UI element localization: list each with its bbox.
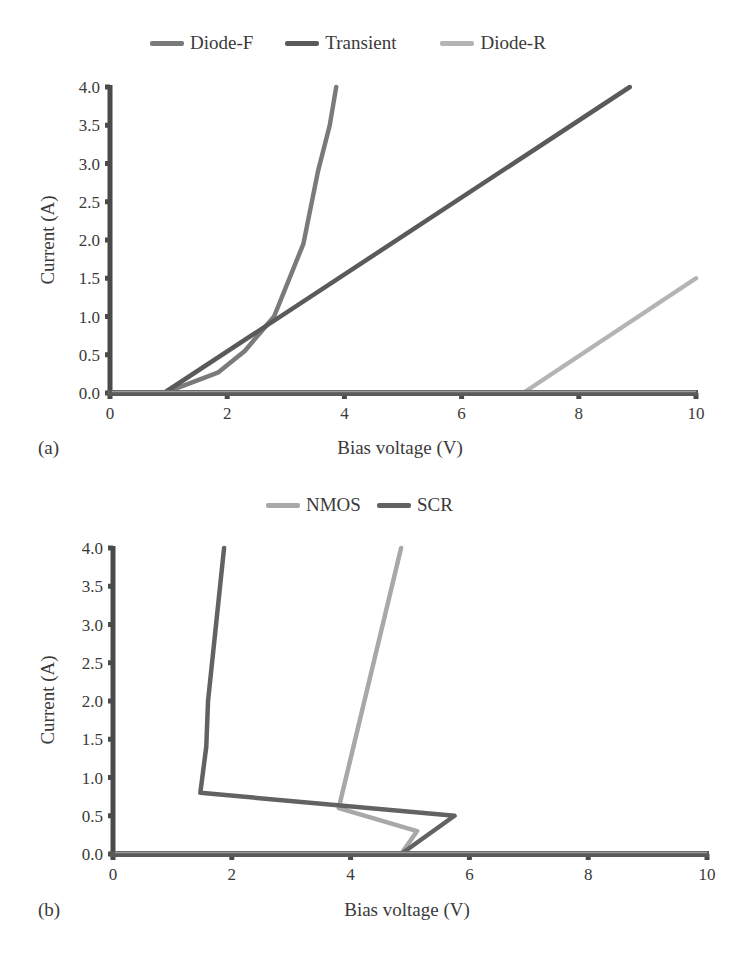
x-tick-label: 8 <box>584 865 593 884</box>
series-scr <box>113 548 455 854</box>
y-axis-label: Current (A) <box>37 195 59 284</box>
y-tick-label: 3.5 <box>79 116 100 135</box>
y-tick-label: 2.5 <box>82 654 103 673</box>
panel-label: (a) <box>38 437 59 459</box>
y-tick-label: 3.0 <box>82 616 103 635</box>
y-tick-label: 0.0 <box>79 384 100 403</box>
y-tick-label: 2.0 <box>79 231 100 250</box>
series-diode-r <box>110 278 696 393</box>
series-transient <box>110 87 630 393</box>
y-tick-label: 1.0 <box>82 769 103 788</box>
x-tick-label: 10 <box>688 404 705 423</box>
y-tick-label: 1.5 <box>79 269 100 288</box>
y-tick-label: 3.5 <box>82 577 103 596</box>
y-tick-label: 2.5 <box>79 193 100 212</box>
chart-canvas: 0.00.51.01.52.02.53.03.54.00246810Bias v… <box>0 0 743 958</box>
x-tick-label: 0 <box>109 865 118 884</box>
chart-panel-a: 0.00.51.01.52.02.53.03.54.00246810Bias v… <box>37 78 705 459</box>
series-diode-f <box>110 87 336 393</box>
figure: Diode-F Transient Diode-R NMOS SCR 0.00.… <box>0 0 743 958</box>
y-tick-label: 0.5 <box>79 346 100 365</box>
chart-panel-b: 0.00.51.01.52.02.53.03.54.00246810Bias v… <box>37 539 716 921</box>
x-tick-label: 0 <box>106 404 115 423</box>
x-tick-label: 4 <box>346 865 355 884</box>
y-tick-label: 2.0 <box>82 692 103 711</box>
y-tick-label: 3.0 <box>79 155 100 174</box>
y-tick-label: 1.5 <box>82 730 103 749</box>
y-tick-label: 0.0 <box>82 845 103 864</box>
x-tick-label: 6 <box>465 865 474 884</box>
x-tick-label: 6 <box>457 404 466 423</box>
y-axis-label: Current (A) <box>37 655 59 744</box>
panel-label: (b) <box>38 899 60 921</box>
x-tick-label: 2 <box>228 865 237 884</box>
y-tick-label: 4.0 <box>82 539 103 558</box>
y-tick-label: 0.5 <box>82 807 103 826</box>
x-tick-label: 2 <box>223 404 232 423</box>
x-tick-label: 4 <box>340 404 349 423</box>
x-tick-label: 10 <box>699 865 716 884</box>
x-axis-label: Bias voltage (V) <box>337 437 463 459</box>
y-tick-label: 4.0 <box>79 78 100 97</box>
x-axis-label: Bias voltage (V) <box>344 899 470 921</box>
y-tick-label: 1.0 <box>79 308 100 327</box>
x-tick-label: 8 <box>575 404 584 423</box>
